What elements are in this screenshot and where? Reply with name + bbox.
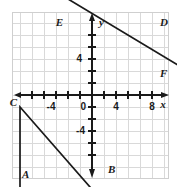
y-tick-label-4: 4 [76, 53, 82, 64]
y-axis-label: y [97, 16, 104, 28]
vertex-label-b: B [107, 163, 115, 175]
coordinate-plane-figure: -4 4 8 4 -4 0 x y E D F C A B [0, 0, 177, 187]
coordinate-graph: -4 4 8 4 -4 0 x y E D F C A B [0, 0, 177, 187]
origin-label: 0 [80, 101, 86, 112]
x-axis-label: x [159, 98, 166, 110]
x-tick-label--4: -4 [47, 101, 56, 112]
vertex-label-d: D [159, 16, 168, 28]
vertex-label-a: A [21, 168, 29, 180]
y-tick-label--4: -4 [76, 125, 85, 136]
vertex-label-e: E [55, 16, 63, 28]
vertex-label-c: C [10, 96, 18, 108]
vertex-label-f: F [159, 67, 168, 79]
x-tick-label-8: 8 [149, 101, 155, 112]
x-tick-label-4: 4 [113, 101, 119, 112]
